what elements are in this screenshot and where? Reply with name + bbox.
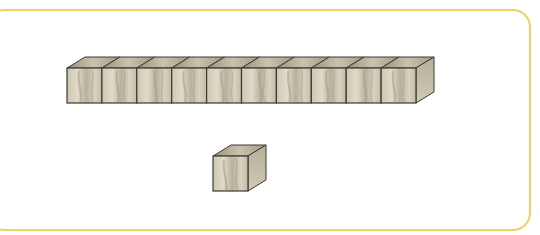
unit-cube [213, 145, 266, 191]
rod-cube-front [67, 68, 102, 103]
ten-rod [67, 57, 434, 103]
rod-cube-front [381, 68, 416, 103]
rod-cube-front [172, 68, 207, 103]
base-ten-blocks-diagram [0, 0, 540, 235]
rod-cube-front [276, 68, 311, 103]
